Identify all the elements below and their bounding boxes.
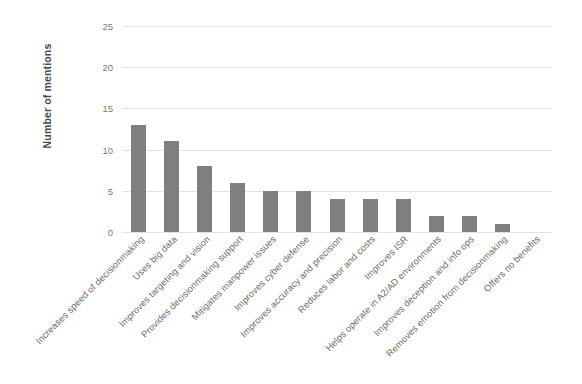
y-axis-title: Number of mentions — [41, 26, 53, 166]
y-tick-label: 5 — [108, 185, 113, 196]
bar — [296, 191, 311, 232]
bar — [131, 125, 146, 232]
bar — [363, 199, 378, 232]
bar — [429, 216, 444, 232]
bar-series — [122, 26, 552, 232]
y-tick-label: 25 — [102, 21, 113, 32]
chart-title-cropped — [0, 0, 582, 8]
bar — [462, 216, 477, 232]
y-tick-label: 20 — [102, 62, 113, 73]
y-tick-label: 15 — [102, 103, 113, 114]
bar — [263, 191, 278, 232]
bar — [330, 199, 345, 232]
bar — [230, 183, 245, 232]
x-axis-labels: Increases speed of decisionmakingUses bi… — [122, 234, 582, 384]
bar — [164, 141, 179, 232]
gridline: 0 — [122, 232, 552, 233]
bar — [197, 166, 212, 232]
plot-area: 0510152025 — [122, 26, 552, 232]
y-tick-label: 10 — [102, 144, 113, 155]
bar — [495, 224, 510, 232]
bar — [396, 199, 411, 232]
bar-chart: Number of mentions 0510152025 Increases … — [0, 0, 582, 384]
y-tick-label: 0 — [108, 227, 113, 238]
